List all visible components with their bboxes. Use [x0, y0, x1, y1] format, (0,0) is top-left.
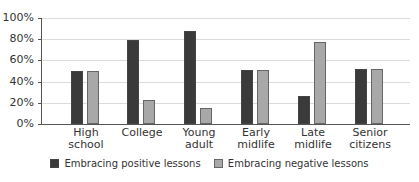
y-tick-label: 40%	[0, 76, 34, 88]
x-tick-label: Latemidlife	[283, 127, 343, 151]
y-axis-line	[41, 18, 42, 125]
bar-negative	[257, 70, 269, 124]
legend-label-negative: Embracing negative lessons	[228, 158, 369, 169]
gridline	[42, 60, 410, 61]
legend-item-positive: Embracing positive lessons	[50, 158, 200, 169]
y-tick-label: 60%	[0, 54, 34, 66]
y-tick-label: 80%	[0, 33, 34, 45]
bar-negative	[87, 71, 99, 124]
legend-label-positive: Embracing positive lessons	[64, 158, 200, 169]
x-tick-label: Seniorcitizens	[340, 127, 400, 151]
legend-swatch-negative	[214, 159, 223, 168]
bar-chart: 0%20%40%60%80%100% HighschoolCollege You…	[0, 0, 419, 182]
bar-negative	[143, 100, 155, 124]
bar-negative	[314, 42, 326, 124]
gridline	[42, 18, 410, 19]
bar-positive	[71, 71, 83, 124]
x-tick-label: College	[112, 127, 172, 151]
x-tick-label: Youngadult	[169, 127, 229, 151]
bar-negative	[371, 69, 383, 124]
y-tick-label: 20%	[0, 97, 34, 109]
y-tick-label: 100%	[0, 12, 34, 24]
bar-positive	[355, 69, 367, 124]
legend: Embracing positive lessons Embracing neg…	[0, 158, 419, 170]
legend-item-negative: Embracing negative lessons	[214, 158, 369, 169]
x-axis-line	[38, 124, 410, 125]
bar-negative	[200, 108, 212, 124]
x-tick-label: Highschool	[56, 127, 116, 151]
bar-positive	[298, 96, 310, 124]
bar-positive	[184, 31, 196, 124]
bar-positive	[241, 70, 253, 124]
y-tick-label: 0%	[0, 118, 34, 130]
gridline	[42, 39, 410, 40]
legend-swatch-positive	[50, 159, 59, 168]
bar-positive	[127, 40, 139, 124]
x-tick-label: Earlymidlife	[226, 127, 286, 151]
